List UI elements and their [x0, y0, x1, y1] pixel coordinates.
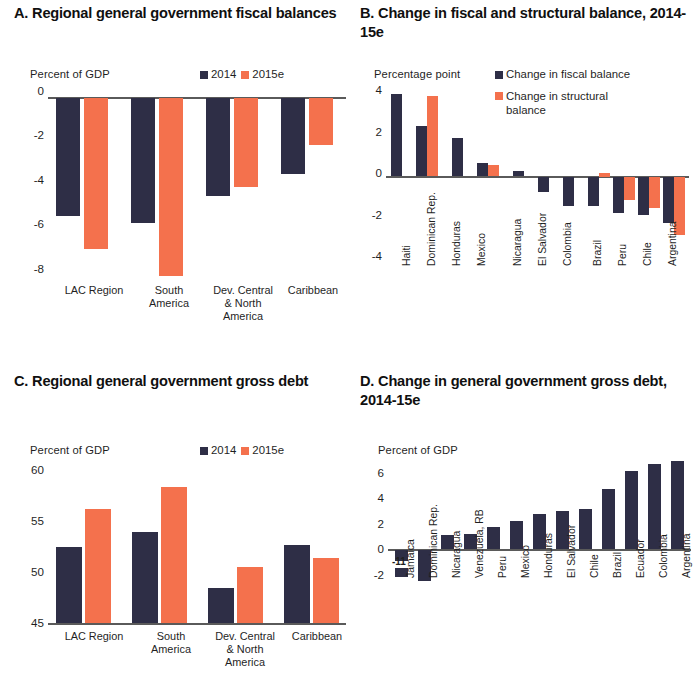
panel-d-xlabel-5: Mexico	[520, 545, 531, 578]
panel-c-bar-devcna-2014	[208, 588, 234, 623]
panel-b-bar-argentina-fiscal	[663, 177, 674, 223]
panel-d-plot: 6 4 2 0 -2 -11	[360, 372, 693, 698]
panel-c-bar-caribbean-2015e	[313, 558, 339, 623]
panel-c: C. Regional general government gross deb…	[14, 372, 350, 698]
panel-c-plot: 60 55 50 45 LAC Region SouthAmerica Dev.…	[14, 372, 350, 698]
panel-b-xlabel-3: Mexico	[476, 233, 487, 266]
panel-b-xlabel-6: Colombia	[562, 222, 573, 266]
panel-b: B. Change in fiscal and structural balan…	[360, 4, 693, 352]
panel-a-bar-lac-2015e	[84, 98, 108, 249]
panel-b-bar-chile-fiscal	[638, 177, 649, 215]
panel-d-xlabel-4: Peru	[497, 556, 508, 578]
panel-c-ytick-2: 50	[14, 565, 44, 578]
panel-c-bar-south-2014	[132, 532, 158, 623]
panel-d-xlabel-3: Venezuela, RB	[474, 509, 485, 578]
panel-b-xlabel-4: Nicaragua	[512, 219, 523, 266]
panel-d-ytick-1: 4	[360, 491, 384, 504]
panel-d-xlabel-1: Dominican Rep.	[428, 504, 439, 578]
panel-b-bar-mexico-structural	[488, 165, 499, 176]
panel-b-ytick-1: 2	[360, 125, 382, 138]
panel-d-bar-chile	[579, 509, 592, 549]
panel-a-bar-devcna-2014	[206, 98, 230, 196]
panel-d-bar-peru	[487, 527, 500, 549]
panel-b-bar-dominican-fiscal	[416, 126, 427, 176]
panel-b-bar-mexico-fiscal	[477, 163, 488, 176]
panel-b-bar-colombia-fiscal	[563, 177, 574, 206]
panel-b-xlabel-0: Haiti	[401, 245, 412, 266]
panel-b-plot: 4 2 0 -2 -4	[360, 4, 693, 352]
panel-a-xlabel-3: Caribbean	[276, 284, 350, 297]
panel-b-bar-elsalvador-fiscal	[538, 177, 549, 192]
panel-d-xlabel-12: Argentina	[681, 534, 692, 578]
panel-a-ytick-3: -6	[14, 217, 44, 230]
panel-b-bar-peru-structural	[624, 177, 635, 200]
panel-c-baseline	[48, 623, 346, 625]
panel-c-ytick-1: 55	[14, 514, 44, 527]
panel-a-ytick-0: 0	[14, 84, 44, 97]
panel-c-xlabel-2: Dev. Central& NorthAmerica	[198, 630, 292, 669]
panel-b-bar-haiti-fiscal	[391, 94, 402, 176]
panel-a-bar-caribbean-2015e	[309, 98, 333, 145]
panel-b-ytick-3: -2	[360, 208, 382, 221]
panel-a-bar-south-2014	[131, 98, 155, 223]
panel-b-bar-chile-structural	[649, 177, 660, 208]
panel-b-xlabel-7: Brazil	[592, 240, 603, 266]
panel-d-xlabel-2: Nicaragua	[451, 531, 462, 578]
panel-b-xlabel-8: Peru	[617, 244, 628, 266]
panel-b-xlabel-9: Chile	[642, 242, 653, 266]
panel-d-bar-brazil	[602, 489, 615, 549]
panel-b-bar-peru-fiscal	[613, 177, 624, 213]
panel-b-bar-brazil-fiscal	[588, 177, 599, 206]
panel-b-bar-dominican-structural	[427, 96, 438, 176]
panel-d-xlabel-8: Chile	[589, 554, 600, 578]
panel-a-ytick-2: -4	[14, 173, 44, 186]
panel-b-xlabel-5: El Salvador	[537, 213, 548, 266]
panel-a-plot: 0 -2 -4 -6 -8 LAC Region SouthAmerica De…	[14, 4, 350, 352]
panel-a-bar-lac-2014	[56, 98, 80, 216]
panel-d-xlabel-7: El Salvador	[566, 525, 577, 578]
panel-d: D. Change in general government gross de…	[360, 372, 693, 698]
figure-page: A. Regional general government fiscal ba…	[0, 0, 693, 698]
panel-b-ytick-2: 0	[360, 166, 382, 179]
panel-c-ytick-3: 45	[14, 616, 44, 629]
panel-c-bar-devcna-2015e	[237, 567, 263, 623]
panel-b-ytick-0: 4	[360, 83, 382, 96]
panel-d-xlabel-11: Colombia	[658, 534, 669, 578]
panel-b-bar-honduras-fiscal	[452, 138, 463, 176]
panel-c-bar-caribbean-2014	[284, 545, 310, 623]
panel-b-ytick-4: -4	[360, 249, 382, 262]
panel-a-bar-devcna-2015e	[234, 98, 258, 187]
panel-b-xlabel-2: Honduras	[451, 221, 462, 266]
panel-d-xlabel-6: Honduras	[543, 533, 554, 578]
panel-d-xlabel-9: Brazil	[612, 552, 623, 578]
panel-c-bar-south-2015e	[161, 487, 187, 623]
panel-d-ytick-0: 6	[360, 466, 384, 479]
panel-d-xlabel-0: Jamaica	[405, 539, 416, 578]
panel-d-annotation-jamaica: -11	[392, 556, 406, 567]
panel-d-bar-ecuador	[625, 471, 638, 549]
panel-c-bar-lac-2014	[56, 547, 82, 623]
panel-a-ytick-1: -2	[14, 128, 44, 141]
panel-b-bar-brazil-structural	[599, 173, 610, 177]
panel-d-xlabel-10: Ecuador	[635, 539, 646, 578]
panel-a-bar-caribbean-2014	[281, 98, 305, 174]
panel-b-xlabel-1: Dominican Rep.	[426, 192, 437, 266]
panel-a-ytick-4: -8	[14, 262, 44, 275]
panel-d-ytick-2: 2	[360, 517, 384, 530]
panel-b-xlabel-10: Argentina	[667, 222, 678, 266]
panel-c-bar-lac-2015e	[85, 509, 111, 623]
panel-a-bar-south-2015e	[159, 98, 183, 276]
panel-d-ytick-4: -2	[360, 568, 384, 581]
panel-a: A. Regional general government fiscal ba…	[14, 4, 350, 352]
panel-c-ytick-0: 60	[14, 463, 44, 476]
panel-d-ytick-3: 0	[360, 542, 384, 555]
panel-b-bar-nicaragua-fiscal	[513, 171, 524, 176]
panel-c-xlabel-3: Caribbean	[280, 630, 354, 643]
